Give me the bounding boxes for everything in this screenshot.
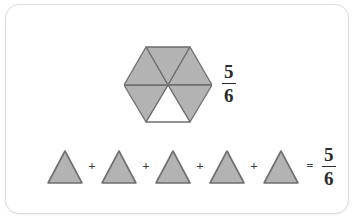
- hexagon-fraction-label: 5 6: [222, 62, 236, 105]
- hexagon-fraction-bar: [222, 83, 236, 84]
- triangle-addition-equation: + + + + = 5 6: [46, 146, 336, 188]
- equation-triangle-2: [100, 148, 138, 186]
- plus-operator-3: +: [192, 159, 208, 176]
- equation-result-bar: [322, 166, 336, 167]
- plus-operator-2: +: [138, 159, 154, 176]
- equation-triangle-4: [208, 148, 246, 186]
- plus-operator-4: +: [246, 159, 262, 176]
- hexagon-fraction-denominator: 6: [222, 85, 236, 105]
- equation-triangle-1: [46, 148, 84, 186]
- hexagon-svg: [124, 43, 212, 127]
- hexagon-fraction-model: [124, 43, 212, 127]
- equation-triangle-3: [154, 148, 192, 186]
- hexagon-fraction-numerator: 5: [222, 62, 236, 82]
- worksheet-card: 5 6 + + + + =: [5, 4, 349, 214]
- plus-operator-1: +: [84, 159, 100, 176]
- equation-result-denominator: 6: [322, 168, 336, 188]
- screenshot-root: 5 6 + + + + =: [0, 0, 355, 219]
- equals-operator: =: [300, 160, 320, 174]
- equation-result-fraction: 5 6: [322, 145, 336, 190]
- equation-result-numerator: 5: [322, 145, 336, 165]
- equation-triangle-5: [262, 148, 300, 186]
